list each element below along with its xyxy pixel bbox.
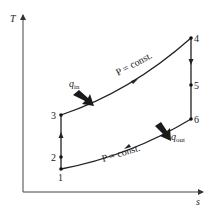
top-pressure-label: P = const. bbox=[114, 50, 154, 78]
state-label-2: 2 bbox=[51, 152, 56, 163]
arrow-up-icon bbox=[59, 132, 64, 138]
state-point-6 bbox=[189, 117, 193, 121]
process-3-4 bbox=[61, 38, 191, 115]
state-point-4 bbox=[189, 36, 193, 40]
x-axis-label: s bbox=[196, 196, 200, 207]
state-label-3: 3 bbox=[51, 110, 56, 121]
heat-out-arrow-icon bbox=[155, 122, 171, 141]
state-label-1: 1 bbox=[58, 172, 63, 183]
process-6-1 bbox=[61, 119, 191, 169]
ts-diagram: T s 1 2 3 4 5 6 P = const. P = const. qi… bbox=[0, 0, 217, 207]
arrow-down-icon bbox=[189, 59, 194, 65]
heat-out-label: qout bbox=[171, 131, 185, 144]
heat-in-arrow-icon bbox=[73, 90, 94, 106]
y-axis-label: T bbox=[10, 13, 17, 24]
state-point-5 bbox=[189, 83, 193, 87]
heat-in-label: qin bbox=[69, 78, 80, 91]
state-label-6: 6 bbox=[194, 114, 199, 125]
state-point-3 bbox=[59, 113, 63, 117]
bottom-pressure-label: P = const. bbox=[100, 142, 141, 164]
state-label-5: 5 bbox=[194, 80, 199, 91]
state-label-4: 4 bbox=[194, 33, 199, 44]
state-point-1 bbox=[59, 167, 63, 171]
state-point-2 bbox=[59, 155, 63, 159]
